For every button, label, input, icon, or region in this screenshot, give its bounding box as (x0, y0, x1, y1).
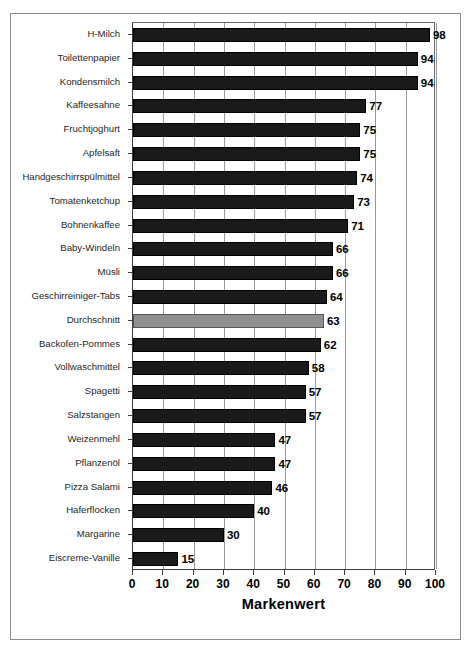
x-tick-label-80: 80 (368, 577, 381, 591)
x-tick-100 (435, 570, 436, 575)
bar-haferflocken (133, 504, 254, 518)
x-tick-label-60: 60 (307, 577, 320, 591)
bar-value-label: 46 (275, 478, 288, 498)
category-label: H-Milch (87, 28, 120, 40)
bar-row: 63 (133, 309, 434, 333)
category-label: Pflanzenöl (75, 457, 120, 469)
bar-row: 75 (133, 142, 434, 166)
bar-value-label: 30 (227, 525, 240, 545)
category-label: Fruchtjoghurt (63, 123, 120, 135)
x-tick-label-40: 40 (247, 577, 260, 591)
x-tick-80 (374, 570, 375, 575)
bar-value-label: 74 (360, 168, 373, 188)
bar-row: 47 (133, 428, 434, 452)
bar-apfelsaft (133, 147, 360, 161)
bar-row: 71 (133, 214, 434, 238)
x-tick-label-0: 0 (129, 577, 136, 591)
category-label: Margarine (77, 528, 120, 540)
category-label: Vollwaschmittel (54, 361, 120, 373)
bar-value-label: 75 (363, 144, 376, 164)
bar-row: 73 (133, 190, 434, 214)
x-tick-label-30: 30 (216, 577, 229, 591)
category-label: Pizza Salami (65, 481, 120, 493)
bar-row: 98 (133, 23, 434, 47)
bar-kondensmilch (133, 76, 418, 90)
bar-baby-windeln (133, 242, 333, 256)
bar-row: 47 (133, 452, 434, 476)
category-label: Weizenmehl (67, 433, 120, 445)
bar-row: 66 (133, 261, 434, 285)
x-tick-20 (193, 570, 194, 575)
bar-value-label: 57 (309, 406, 322, 426)
bar-row: 30 (133, 523, 434, 547)
bar-value-label: 71 (351, 216, 364, 236)
bar-spagetti (133, 385, 306, 399)
bar-value-label: 73 (357, 192, 370, 212)
bar-value-label: 47 (278, 430, 291, 450)
bar-kaffeesahne (133, 99, 366, 113)
x-tick-90 (405, 570, 406, 575)
bar-rows: 9894947775757473716666646362585757474746… (133, 23, 434, 569)
bar-value-label: 66 (336, 263, 349, 283)
bar-value-label: 15 (181, 549, 194, 569)
axis-title-markenwert: Markenwert (132, 596, 435, 612)
bar-value-label: 63 (327, 311, 340, 331)
x-tick-40 (253, 570, 254, 575)
bar-value-label: 58 (312, 358, 325, 378)
bar-value-label: 57 (309, 382, 322, 402)
x-tick-label-100: 100 (425, 577, 445, 591)
bar-row: 74 (133, 166, 434, 190)
x-tick-60 (314, 570, 315, 575)
bar-m-sli (133, 266, 333, 280)
category-label: Müsli (98, 266, 120, 278)
bar-tomatenketchup (133, 195, 354, 209)
bar-row: 15 (133, 547, 434, 571)
bar-margarine (133, 528, 224, 542)
gridline-100 (436, 23, 437, 569)
category-label: Haferflocken (66, 504, 120, 516)
bar-geschirreiniger-tabs (133, 290, 327, 304)
bar-row: 57 (133, 404, 434, 428)
category-label: Geschirreiniger-Tabs (31, 290, 120, 302)
x-tick-label-50: 50 (277, 577, 290, 591)
bar-vollwaschmittel (133, 361, 309, 375)
bar-value-label: 40 (257, 501, 270, 521)
bar-h-milch (133, 28, 430, 42)
category-label: Eiscreme-Vanille (49, 552, 120, 564)
bar-row: 64 (133, 285, 434, 309)
bar-value-label: 62 (324, 335, 337, 355)
bar-value-label: 75 (363, 120, 376, 140)
x-tick-label-10: 10 (156, 577, 169, 591)
category-label: Bohnenkaffee (61, 219, 120, 231)
bar-value-label: 66 (336, 239, 349, 259)
category-label: Durchschnitt (67, 314, 120, 326)
x-tick-label-70: 70 (337, 577, 350, 591)
bar-row: 40 (133, 500, 434, 524)
category-label: Kondensmilch (60, 76, 120, 88)
figure-caption (18, 648, 458, 659)
bar-value-label: 47 (278, 454, 291, 474)
category-label: Toilettenpapier (58, 52, 120, 64)
category-label: Salzstangen (67, 409, 120, 421)
bar-row: 94 (133, 47, 434, 71)
bar-eiscreme-vanille (133, 552, 178, 566)
bar-row: 57 (133, 380, 434, 404)
category-label: Handgeschirrspülmittel (22, 171, 120, 183)
bar-row: 58 (133, 357, 434, 381)
x-tick-0 (132, 570, 133, 575)
bar-value-label: 94 (421, 49, 434, 69)
bar-row: 62 (133, 333, 434, 357)
category-label: Spagetti (85, 385, 120, 397)
bar-backofen-pommes (133, 338, 321, 352)
x-tick-label-20: 20 (186, 577, 199, 591)
category-label: Baby-Windeln (60, 242, 120, 254)
category-label: Tomatenketchup (50, 195, 120, 207)
plot-area: 9894947775757473716666646362585757474746… (132, 22, 435, 570)
x-tick-50 (284, 570, 285, 575)
bar-weizenmehl (133, 433, 275, 447)
bar-fruchtjoghurt (133, 123, 360, 137)
x-tick-10 (162, 570, 163, 575)
category-label: Kaffeesahne (66, 99, 120, 111)
bar-row: 46 (133, 476, 434, 500)
bar-value-label: 94 (421, 73, 434, 93)
